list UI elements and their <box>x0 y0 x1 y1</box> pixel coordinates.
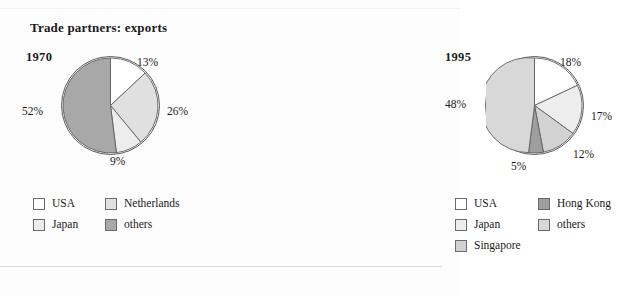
year-label-1995: 1995 <box>445 50 471 65</box>
legend-label-usa: USA <box>474 198 497 210</box>
pie-label-1970-others: 52% <box>22 105 43 117</box>
legend-swatch-hong-kong-icon <box>538 198 550 210</box>
pie-chart-1970 <box>61 56 160 155</box>
legend-label-others: others <box>557 219 585 231</box>
pie-label-1995-singapore: 12% <box>573 148 594 160</box>
pie-label-1995-japan: 17% <box>591 110 612 122</box>
legend-item-others-1995[interactable]: others <box>538 214 611 235</box>
year-label-1970: 1970 <box>26 50 52 65</box>
legend-label-japan: Japan <box>474 219 500 231</box>
legend-item-japan-1995[interactable]: Japan <box>455 214 538 235</box>
legend-1970: USA Japan Netherlands others <box>33 193 203 235</box>
page-title: Trade partners: exports <box>30 20 167 36</box>
legend-swatch-japan-icon <box>33 219 45 231</box>
legend-swatch-others-icon <box>538 219 550 231</box>
pie-label-1970-japan: 9% <box>110 155 125 167</box>
legend-swatch-others-icon <box>105 219 117 231</box>
legend-item-usa-1970[interactable]: USA <box>33 193 105 214</box>
pie-1970-svg <box>62 57 159 154</box>
pie-1995-svg <box>486 57 583 154</box>
legend-item-hong-kong-1995[interactable]: Hong Kong <box>538 193 611 214</box>
pie-slice-others-1970 <box>63 58 116 153</box>
legend-1995: USA Japan Singapore Hong Kong <box>455 193 617 256</box>
legend-swatch-usa-icon <box>455 198 467 210</box>
legend-label-japan: Japan <box>52 219 78 231</box>
legend-item-usa-1995[interactable]: USA <box>455 193 538 214</box>
legend-label-netherlands: Netherlands <box>124 198 180 210</box>
legend-swatch-usa-icon <box>33 198 45 210</box>
legend-swatch-singapore-icon <box>455 240 467 252</box>
legend-item-others-1970[interactable]: others <box>105 214 180 235</box>
legend-label-hong-kong: Hong Kong <box>557 198 611 210</box>
pie-slice-others-1995 <box>486 58 535 153</box>
pie-label-1970-netherlands: 26% <box>167 105 188 117</box>
legend-swatch-japan-icon <box>455 219 467 231</box>
pie-label-1970-usa: 13% <box>137 56 158 68</box>
legend-label-singapore: Singapore <box>474 240 521 252</box>
legend-item-singapore-1995[interactable]: Singapore <box>455 235 538 256</box>
bottom-divider <box>0 266 442 267</box>
pie-label-1995-usa: 18% <box>560 56 581 68</box>
pie-chart-1995 <box>485 56 584 155</box>
pie-label-1995-hong-kong: 5% <box>511 160 526 172</box>
legend-label-others: others <box>124 219 152 231</box>
pie-label-1995-others: 48% <box>445 98 466 110</box>
legend-label-usa: USA <box>52 198 75 210</box>
legend-swatch-netherlands-icon <box>105 198 117 210</box>
legend-item-japan-1970[interactable]: Japan <box>33 214 105 235</box>
legend-item-netherlands-1970[interactable]: Netherlands <box>105 193 180 214</box>
